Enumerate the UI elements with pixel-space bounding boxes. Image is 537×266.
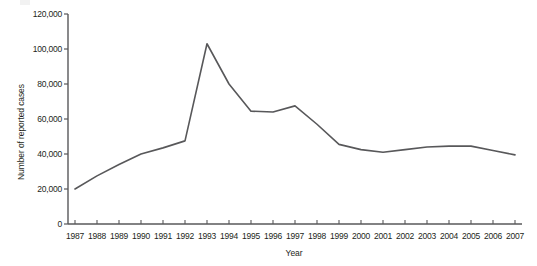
x-axis-title: Year [264, 248, 324, 258]
data-line-reported-cases [75, 44, 515, 189]
line-chart: 120,000100,00080,00060,00040,00020,0000 … [0, 0, 537, 266]
y-tick-label: 120,000 [16, 10, 62, 19]
x-tick-label: 2007 [500, 232, 530, 241]
chart-series [75, 44, 515, 189]
y-tick-label: 20,000 [16, 185, 62, 194]
y-axis-title: Number of reported cases [16, 84, 26, 180]
chart-axes [64, 14, 522, 224]
chart-plot-area [0, 0, 537, 266]
y-tick-label: 100,000 [16, 45, 62, 54]
y-tick-label: 0 [16, 220, 62, 229]
